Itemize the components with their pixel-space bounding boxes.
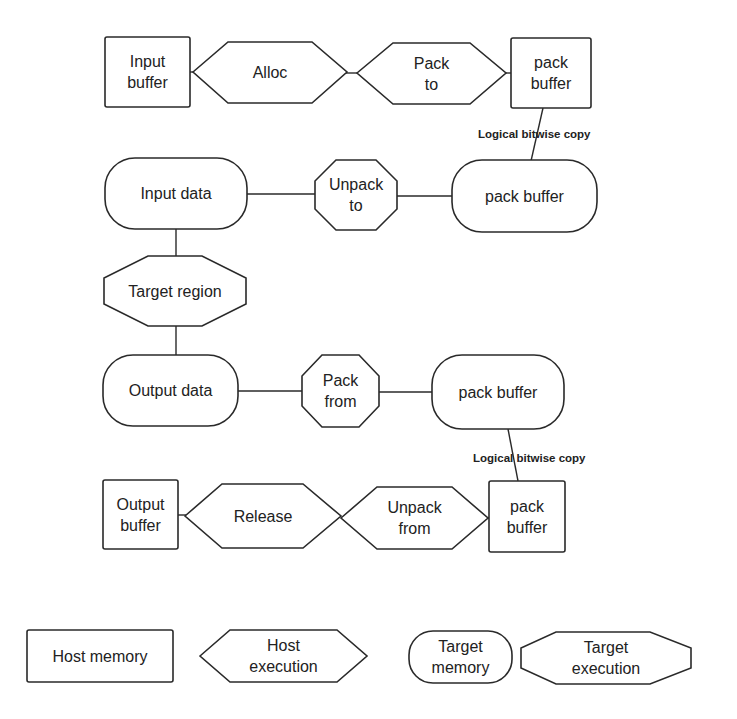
pack-buffer-target-top-label: pack buffer (452, 160, 597, 232)
pack-buffer-target-bottom-label: pack buffer (432, 355, 564, 429)
release-label: Release (185, 484, 341, 548)
legend-host-execution-label: Host execution (200, 630, 367, 682)
unpack-to-label: Unpack to (315, 160, 397, 230)
legend-target-memory-label: Target memory (409, 631, 512, 683)
logical-copy-top-label: Logical bitwise copy (478, 128, 590, 140)
pack-buffer-host-bottom-label: pack buffer (489, 481, 565, 552)
pack-buffer-host-top-label: pack buffer (511, 38, 591, 108)
input-data-label: Input data (105, 158, 247, 229)
legend-target-execution-label: Target execution (521, 632, 691, 684)
output-buffer-label: Output buffer (103, 480, 178, 549)
pack-from-label: Pack from (302, 355, 379, 427)
unpack-from-label: Unpack from (341, 487, 488, 549)
pack-to-label: Pack to (357, 43, 506, 104)
logical-copy-bottom-label: Logical bitwise copy (473, 452, 585, 464)
input-buffer-label: Input buffer (105, 37, 190, 107)
legend-host-memory-label: Host memory (27, 630, 173, 682)
alloc-label: Alloc (193, 42, 347, 103)
output-data-label: Output data (103, 355, 238, 426)
target-region-label: Target region (104, 256, 246, 326)
